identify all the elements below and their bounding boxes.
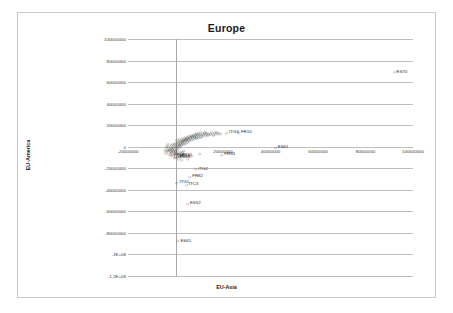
data-point: [219, 131, 222, 134]
x-tick-label: 40000000: [261, 149, 281, 154]
x-tick-label: 80000000: [356, 149, 376, 154]
y-tick-label: 40000000: [106, 101, 126, 106]
data-point-label: ITC3: [189, 182, 199, 185]
gridline: [128, 61, 413, 62]
data-point-label: FR83: [224, 152, 235, 155]
y-tick-label: -1.2E+08: [108, 274, 126, 279]
y-tick-label: 60000000: [106, 80, 126, 85]
data-point-labeled: ES70: [393, 70, 396, 73]
chart-title: Europe: [18, 22, 435, 34]
data-point-label: ES52: [190, 201, 201, 204]
plot-area: 1000000008000000060000000400000002000000…: [128, 39, 413, 276]
gridline: [128, 168, 413, 169]
gridline: [128, 276, 413, 277]
data-point-label: ITG2: [198, 167, 208, 170]
data-point-label: FR10: [241, 130, 252, 133]
gridline: [128, 104, 413, 105]
data-point-label: ES61: [180, 239, 191, 242]
gridline: [128, 254, 413, 255]
y-tick-label: -1E+08: [112, 252, 126, 257]
x-tick-label: -20000000: [118, 149, 139, 154]
data-point-labeled: FR10: [237, 130, 240, 133]
data-point: [166, 142, 169, 145]
data-point-labeled: FR83: [220, 152, 223, 155]
data-point: [202, 133, 205, 136]
data-point-labeled: ES53: [175, 155, 178, 158]
gridline: [128, 211, 413, 212]
y-tick-label: -60000000: [105, 209, 126, 214]
data-point-labeled: FR82: [188, 174, 191, 177]
y-tick-label: -20000000: [105, 166, 126, 171]
y-tick-label: 80000000: [106, 58, 126, 63]
data-point-labeled: ES61: [176, 239, 179, 242]
gridline: [128, 82, 413, 83]
gridline: [128, 233, 413, 234]
data-point-label: ITG1: [179, 180, 189, 183]
data-point: [215, 131, 218, 134]
data-point-labeled: ES52: [186, 201, 189, 204]
gridline: [128, 39, 413, 40]
data-point-labeled: ITG2: [194, 167, 197, 170]
data-point-label: FR82: [192, 174, 203, 177]
data-point-labeled: ITG4: [225, 130, 228, 133]
data-point-label: ES70: [397, 70, 408, 73]
x-axis-title: EU-Asia: [18, 284, 435, 290]
data-point: [198, 152, 201, 155]
x-tick-label: 60000000: [308, 149, 328, 154]
chart-frame: Europe EU-America EU-Asia 10000000080000…: [17, 12, 436, 298]
data-point-label: ES53: [179, 155, 190, 158]
data-point-label: ES61: [278, 145, 289, 148]
y-axis-title: EU-America: [25, 140, 31, 171]
data-point: [163, 148, 166, 151]
y-tick-label: -80000000: [105, 230, 126, 235]
y-tick-label: 20000000: [106, 123, 126, 128]
data-point-labeled: ITG1: [175, 180, 178, 183]
data-point-labeled: ES61: [274, 145, 277, 148]
gridline: [128, 190, 413, 191]
gridline: [128, 125, 413, 126]
data-point-labeled: FR62: [170, 153, 173, 156]
x-tick-label: 100000000: [402, 149, 424, 154]
y-tick-label: 100000000: [104, 37, 126, 42]
y-tick-label: -40000000: [105, 187, 126, 192]
